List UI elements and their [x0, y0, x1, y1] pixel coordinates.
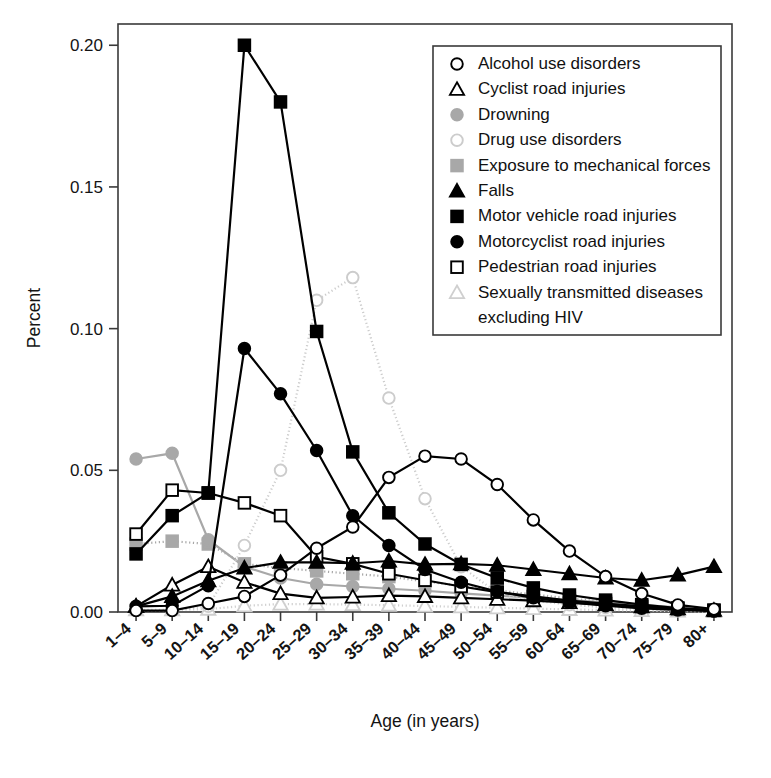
data-point [202, 598, 214, 610]
x-axis-title: Age (in years) [371, 711, 480, 731]
data-point [166, 448, 178, 460]
data-point [166, 535, 178, 547]
data-point [239, 343, 251, 355]
legend-item-motorcyclist-road-injuries[interactable]: Motorcyclist road injuries [451, 232, 665, 251]
data-point [311, 445, 323, 457]
data-point [166, 484, 178, 496]
svg-text:45–49: 45–49 [413, 619, 459, 663]
legend-item-sexually-transmitted-diseases[interactable]: Sexually transmitted diseases [450, 283, 703, 302]
data-point [419, 493, 431, 505]
svg-text:35–39: 35–39 [341, 619, 387, 663]
chart-figure: 0.000.050.100.150.20 1–45–910–1415–1920–… [0, 0, 771, 778]
data-point [202, 580, 214, 592]
data-point [419, 538, 431, 550]
x-tick-label: 70–74 [594, 618, 641, 663]
data-point [383, 472, 395, 484]
y-axis: 0.000.050.100.150.20 [70, 36, 118, 622]
data-point [491, 572, 503, 584]
data-point [347, 521, 359, 533]
legend-item-alcohol-use-disorders[interactable]: Alcohol use disorders [451, 54, 640, 73]
legend-label: Drug use disorders [478, 130, 622, 149]
data-point [166, 510, 178, 522]
x-tick-label: 20–24 [232, 618, 279, 663]
y-tick-label: 0.15 [70, 178, 103, 197]
data-point [455, 559, 467, 571]
data-point [311, 326, 323, 338]
legend-label: Sexually transmitted diseases [478, 283, 703, 302]
legend-item-motor-vehicle-road-injuries[interactable]: Motor vehicle road injuries [451, 206, 676, 225]
svg-text:80+: 80+ [679, 619, 712, 651]
data-point [275, 465, 287, 477]
data-point [202, 487, 214, 499]
x-tick-label: 80+ [679, 619, 712, 651]
legend-item-pedestrian-road-injuries[interactable]: Pedestrian road injuries [451, 257, 656, 276]
data-point [130, 453, 142, 465]
y-tick-label: 0.10 [70, 320, 103, 339]
x-tick-label: 50–54 [449, 618, 496, 663]
y-axis-title: Percent [24, 288, 44, 348]
data-point [383, 507, 395, 519]
svg-text:20–24: 20–24 [232, 618, 279, 663]
legend-item-exposure-to-mechanical-forces[interactable]: Exposure to mechanical forces [451, 156, 710, 175]
x-tick-label: 35–39 [341, 619, 387, 663]
chart-legend: Alcohol use disordersCyclist road injuri… [433, 46, 721, 335]
svg-text:Percent: Percent [24, 288, 44, 348]
svg-text:75–79: 75–79 [630, 619, 676, 663]
svg-text:55–59: 55–59 [485, 619, 531, 663]
legend-label: Exposure to mechanical forces [478, 156, 710, 175]
svg-text:65–69: 65–69 [557, 619, 603, 663]
data-point [451, 109, 463, 121]
legend-item-excluding-hiv[interactable]: excluding HIV [478, 308, 584, 327]
data-point [708, 603, 720, 615]
x-tick-label: 45–49 [413, 619, 459, 663]
data-point [347, 446, 359, 458]
svg-text:70–74: 70–74 [594, 618, 641, 663]
data-point [491, 479, 503, 491]
x-tick-label: 1–4 [102, 618, 135, 650]
svg-text:60–64: 60–64 [521, 618, 568, 663]
data-point [166, 605, 178, 617]
data-point [451, 261, 463, 273]
data-point [491, 586, 503, 598]
data-point [419, 450, 431, 462]
data-point [239, 39, 251, 51]
data-point [130, 548, 142, 560]
data-point [451, 160, 463, 172]
svg-text:30–34: 30–34 [305, 618, 352, 663]
data-point [311, 542, 323, 554]
data-point [239, 497, 251, 509]
legend-label: Motorcyclist road injuries [478, 232, 665, 251]
data-point [239, 540, 251, 552]
svg-text:40–44: 40–44 [377, 618, 424, 663]
x-tick-label: 40–44 [377, 618, 424, 663]
y-tick-label: 0.05 [70, 461, 103, 480]
data-point [130, 528, 142, 540]
data-point [383, 540, 395, 552]
data-point [451, 58, 463, 70]
x-tick-label: 10–14 [160, 618, 207, 663]
legend-label: Cyclist road injuries [478, 79, 625, 98]
svg-text:15–19: 15–19 [196, 619, 242, 663]
data-point [419, 564, 431, 576]
data-point [636, 599, 648, 611]
x-tick-label: 30–34 [305, 618, 352, 663]
x-tick-label: 15–19 [196, 619, 242, 663]
data-point [275, 388, 287, 400]
data-point [636, 588, 648, 600]
data-point [451, 211, 463, 223]
data-point [451, 134, 463, 146]
x-tick-label: 75–79 [630, 619, 676, 663]
x-tick-label: 60–64 [521, 618, 568, 663]
legend-label: Alcohol use disorders [478, 54, 641, 73]
data-point [202, 534, 214, 546]
legend-label: excluding HIV [478, 308, 584, 327]
data-point [528, 582, 540, 594]
data-point [600, 594, 612, 606]
x-axis: 1–45–910–1415–1920–2425–2930–3435–3940–4… [102, 612, 714, 663]
svg-text:50–54: 50–54 [449, 618, 496, 663]
legend-label: Drowning [478, 105, 550, 124]
legend-label: Motor vehicle road injuries [478, 206, 676, 225]
x-tick-label: 25–29 [269, 619, 315, 663]
y-tick-label: 0.00 [70, 603, 103, 622]
data-point [455, 576, 467, 588]
